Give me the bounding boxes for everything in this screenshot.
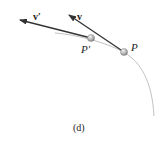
label-v-prime: v′ xyxy=(33,12,41,22)
particle-path-curve xyxy=(55,33,154,116)
label-v: v xyxy=(77,12,82,22)
particle-p-prime xyxy=(87,34,94,41)
particle-p xyxy=(120,48,127,55)
label-p: P xyxy=(131,42,138,53)
velocity-diagram-d: v′ v P′ P (d) xyxy=(0,0,166,143)
figure-caption: (d) xyxy=(73,123,85,133)
label-p-prime: P′ xyxy=(81,44,90,55)
